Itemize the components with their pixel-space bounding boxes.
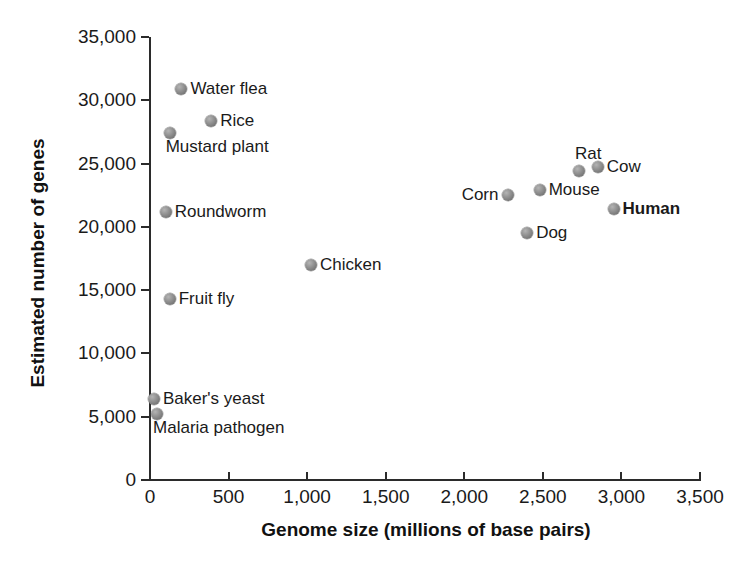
data-point-label: Water flea — [190, 80, 267, 98]
x-axis-tick-mark — [542, 472, 544, 480]
data-point-label: Corn — [462, 186, 499, 204]
data-point-label: Malaria pathogen — [153, 419, 284, 437]
data-point-label: Rice — [220, 112, 254, 130]
data-point-marker — [592, 161, 604, 173]
y-axis-tick-mark — [141, 416, 149, 418]
y-axis-tick-label: 20,000 — [78, 217, 136, 236]
x-axis-tick-mark — [228, 472, 230, 480]
y-axis-tick-label: 10,000 — [78, 343, 136, 362]
data-point-label: Cow — [607, 158, 641, 176]
y-axis-tick-mark — [141, 352, 149, 354]
x-axis-tick-mark — [620, 472, 622, 480]
data-point-label: Mouse — [549, 181, 600, 199]
data-point-marker — [534, 184, 546, 196]
data-point-label: Human — [623, 200, 681, 218]
x-axis-tick-label: 0 — [145, 486, 156, 507]
data-point-label: Dog — [536, 224, 567, 242]
x-axis-tick-label: 2,500 — [519, 486, 567, 507]
x-axis-tick-mark — [463, 472, 465, 480]
data-point-marker — [573, 165, 585, 177]
data-point-label: Roundworm — [175, 203, 267, 221]
data-point-marker — [305, 259, 317, 271]
data-point-marker — [205, 115, 217, 127]
data-point-marker — [608, 203, 620, 215]
y-axis-tick-mark — [141, 163, 149, 165]
x-axis-tick-label: 3,000 — [598, 486, 646, 507]
x-axis-tick-label: 500 — [213, 486, 245, 507]
y-axis-tick-label: 15,000 — [78, 280, 136, 299]
data-point-label: Fruit fly — [179, 290, 235, 308]
data-point-marker — [521, 227, 533, 239]
data-point-marker — [502, 189, 514, 201]
data-point-marker — [164, 293, 176, 305]
data-point-marker — [148, 393, 160, 405]
x-axis-tick-mark — [306, 472, 308, 480]
y-axis-tick-label: 30,000 — [78, 90, 136, 109]
x-axis-tick-label: 1,000 — [283, 486, 331, 507]
y-axis-tick-label: 5,000 — [88, 407, 136, 426]
x-axis-tick-mark — [385, 472, 387, 480]
y-axis-tick-mark — [141, 99, 149, 101]
y-axis-tick-label: 35,000 — [78, 27, 136, 46]
data-point-label: Mustard plant — [166, 138, 269, 156]
y-axis-tick-mark — [141, 289, 149, 291]
x-axis-title: Genome size (millions of base pairs) — [150, 519, 702, 541]
x-axis-tick-mark — [149, 472, 151, 480]
y-axis-tick-mark — [141, 36, 149, 38]
y-axis-title: Estimated number of genes — [27, 108, 49, 418]
y-axis-tick-mark — [141, 479, 149, 481]
scatter-chart: 05,00010,00015,00020,00025,00030,00035,0… — [0, 0, 742, 582]
data-point-marker — [175, 83, 187, 95]
x-axis-tick-mark — [699, 472, 701, 480]
y-axis-tick-mark — [141, 226, 149, 228]
data-point-marker — [160, 206, 172, 218]
x-axis-tick-label: 1,500 — [362, 486, 410, 507]
x-axis-tick-label: 2,000 — [441, 486, 489, 507]
data-point-label: Baker's yeast — [163, 390, 265, 408]
data-point-label: Chicken — [320, 256, 381, 274]
x-axis-line — [149, 479, 701, 481]
y-axis-tick-label: 25,000 — [78, 154, 136, 173]
x-axis-tick-label: 3,500 — [676, 486, 724, 507]
